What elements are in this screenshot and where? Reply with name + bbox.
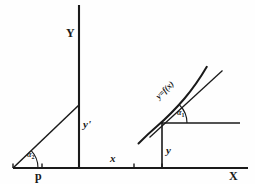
angle-alpha1-subscript: 1 [181, 112, 184, 118]
diagram-svg [0, 0, 255, 184]
y-prime-label: y' [83, 119, 91, 130]
p-label: p [35, 170, 42, 182]
angle-alpha2-label: α2 [27, 151, 34, 160]
y-axis-label: Y [66, 27, 75, 39]
angle-alpha2-subscript: 2 [31, 154, 34, 160]
curve-y-equals-f-of-x [139, 67, 207, 144]
x-axis-label: X [229, 170, 238, 182]
y-label: y [166, 145, 171, 156]
tangent-line [150, 71, 223, 138]
figure-canvas: Y X y' y x p α2 α1 y=f(x) [0, 0, 255, 184]
x-distance-label: x [110, 153, 116, 164]
angle-alpha1-label: α1 [177, 109, 184, 118]
left-inclined-ray [13, 105, 80, 169]
